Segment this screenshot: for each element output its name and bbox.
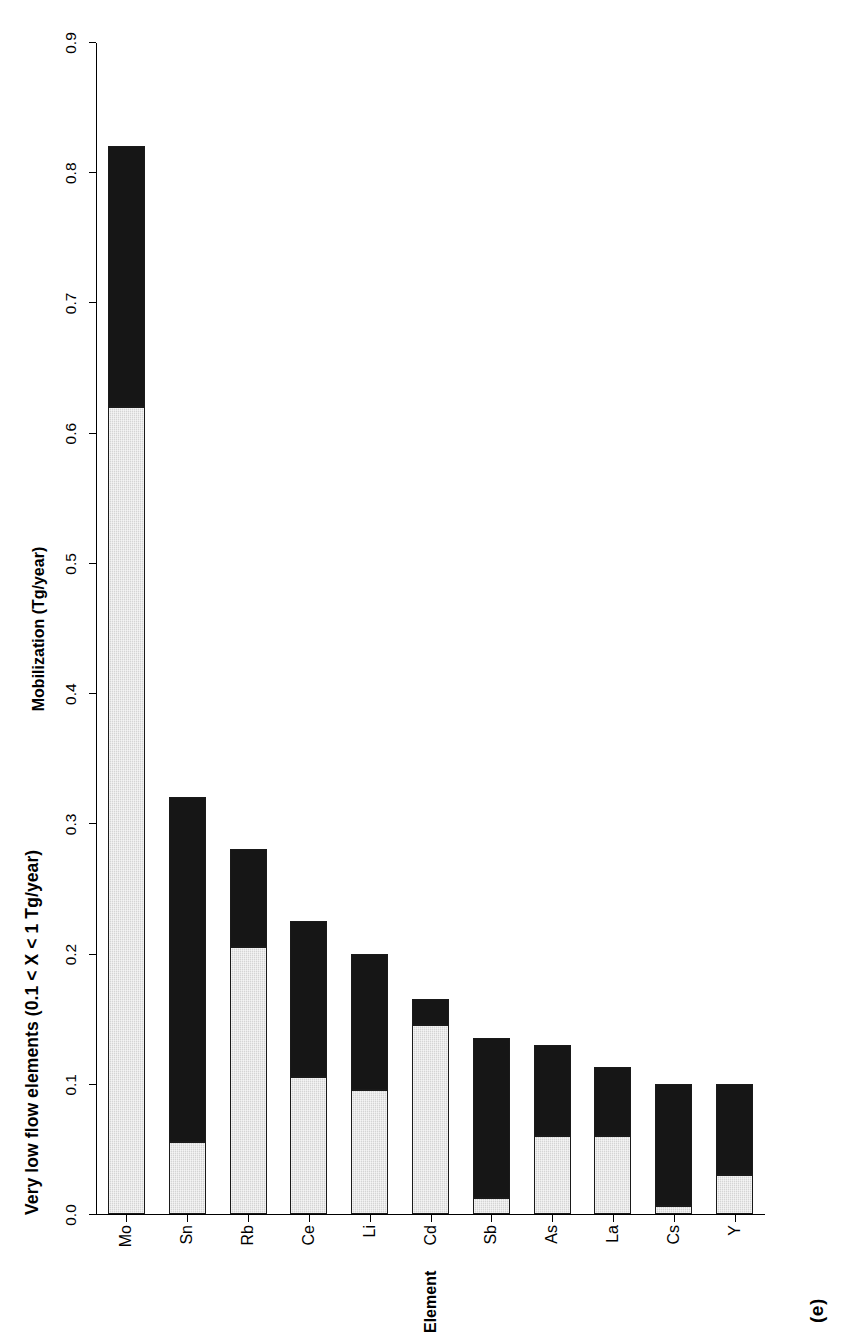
value-tick bbox=[89, 42, 96, 43]
bar-segment-natural bbox=[290, 1077, 327, 1214]
category-tick-label: La bbox=[604, 1225, 622, 1277]
category-tick bbox=[370, 1215, 371, 1222]
value-tick-label: 0.7 bbox=[62, 293, 80, 315]
bar-segment-anthropogenic bbox=[716, 1084, 753, 1175]
bar-segment-natural bbox=[655, 1206, 692, 1214]
value-tick-label: 0.0 bbox=[62, 1204, 80, 1226]
bar-segment-anthropogenic bbox=[473, 1038, 510, 1198]
bar-segment-natural bbox=[108, 407, 145, 1214]
value-tick bbox=[89, 693, 96, 694]
x-axis-title: Element bbox=[422, 1271, 440, 1333]
bar-segment-anthropogenic bbox=[534, 1045, 571, 1136]
bar-segment-natural bbox=[412, 1025, 449, 1214]
category-tick-label: Rb bbox=[239, 1225, 257, 1277]
value-tick-label: 0.1 bbox=[62, 1074, 80, 1096]
category-tick bbox=[491, 1215, 492, 1222]
bar-segment-anthropogenic bbox=[594, 1067, 631, 1136]
value-tick-label: 0.5 bbox=[62, 553, 80, 575]
chart-title: Very low flow elements (0.1 < X < 1 Tg/y… bbox=[22, 850, 43, 1215]
category-tick-label: Cd bbox=[422, 1225, 440, 1277]
category-tick bbox=[674, 1215, 675, 1222]
bar-segment-anthropogenic bbox=[169, 797, 206, 1142]
value-tick bbox=[89, 433, 96, 434]
category-tick-label: As bbox=[543, 1225, 561, 1277]
value-tick-label: 0.6 bbox=[62, 423, 80, 445]
bar-segment-natural bbox=[716, 1175, 753, 1214]
category-tick-label: Ce bbox=[300, 1225, 318, 1277]
bar-segment-anthropogenic bbox=[230, 849, 267, 947]
category-tick-label: Y bbox=[726, 1225, 744, 1277]
category-tick bbox=[187, 1215, 188, 1222]
value-tick bbox=[89, 1084, 96, 1085]
bar-segment-anthropogenic bbox=[655, 1084, 692, 1206]
category-tick-label: Cs bbox=[665, 1225, 683, 1277]
category-tick-label: Sb bbox=[482, 1225, 500, 1277]
category-tick-label: Li bbox=[361, 1225, 379, 1277]
bar-segment-natural bbox=[594, 1136, 631, 1214]
value-tick bbox=[89, 954, 96, 955]
value-axis-line bbox=[96, 43, 97, 1215]
category-tick bbox=[309, 1215, 310, 1222]
bar-segment-anthropogenic bbox=[108, 146, 145, 406]
bar-segment-natural bbox=[534, 1136, 571, 1214]
bar-segment-anthropogenic bbox=[351, 954, 388, 1091]
bar-segment-natural bbox=[351, 1090, 388, 1214]
category-tick-label: Mo bbox=[117, 1225, 135, 1277]
value-tick-label: 0.4 bbox=[62, 683, 80, 705]
category-tick bbox=[552, 1215, 553, 1222]
value-tick bbox=[89, 302, 96, 303]
category-tick bbox=[735, 1215, 736, 1222]
value-tick bbox=[89, 172, 96, 173]
value-tick-label: 0.9 bbox=[62, 32, 80, 54]
panel-label: (e) bbox=[806, 1298, 828, 1323]
value-tick-label: 0.2 bbox=[62, 944, 80, 966]
bar-segment-anthropogenic bbox=[412, 999, 449, 1025]
value-tick bbox=[89, 563, 96, 564]
figure-stage: (e) Very low flow elements (0.1 < X < 1 … bbox=[0, 0, 861, 1333]
category-tick bbox=[126, 1215, 127, 1222]
category-tick bbox=[431, 1215, 432, 1222]
y-axis-title: Mobilization (Tg/year) bbox=[30, 547, 48, 711]
value-tick bbox=[89, 823, 96, 824]
bar-segment-natural bbox=[169, 1142, 206, 1214]
category-tick bbox=[248, 1215, 249, 1222]
bar-segment-natural bbox=[230, 947, 267, 1214]
category-tick bbox=[613, 1215, 614, 1222]
bar-segment-natural bbox=[473, 1198, 510, 1214]
plot-area: Mobilization (Tg/year) Element 0.00.10.2… bbox=[96, 43, 765, 1215]
category-tick-label: Sn bbox=[178, 1225, 196, 1277]
value-tick-label: 0.3 bbox=[62, 814, 80, 836]
value-tick-label: 0.8 bbox=[62, 162, 80, 184]
value-tick bbox=[89, 1214, 96, 1215]
bar-segment-anthropogenic bbox=[290, 921, 327, 1077]
